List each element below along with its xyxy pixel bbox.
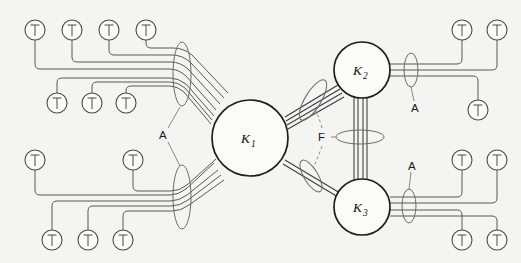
k2-right-wire-bundle: [390, 40, 497, 100]
switching-node-k3[interactable]: K 3: [334, 179, 390, 235]
group-ellipse-upper-left: [173, 42, 191, 106]
terminal-node: [123, 150, 143, 170]
diagram-canvas: K 1 K 2 K 3 A A A F: [0, 0, 521, 263]
leader-a-left-upper: [168, 107, 180, 128]
group-label-f-center: F: [318, 131, 325, 143]
terminal-node: [42, 230, 62, 250]
terminal-node: [452, 230, 472, 250]
leader-a-lower-right: [409, 172, 411, 189]
network-topology-diagram: K 1 K 2 K 3 A A A F: [0, 0, 521, 263]
group-ellipse-lower-left: [173, 165, 191, 229]
terminal-node: [452, 150, 472, 170]
node-label-k1-subscript: 1: [251, 139, 256, 149]
node-label-k2: K: [352, 63, 363, 78]
terminal-node: [136, 20, 156, 40]
group-ellipse-lower-right: [402, 189, 416, 223]
terminal-node: [487, 230, 507, 250]
terminal-node: [78, 230, 98, 250]
terminal-node: [487, 20, 507, 40]
leader-a-left-lower: [168, 142, 180, 166]
group-label-a-upper-right: A: [411, 102, 419, 114]
switching-node-k2[interactable]: K 2: [334, 42, 390, 98]
terminal-node: [113, 230, 133, 250]
k1-k2-trunk-bundle: [285, 85, 344, 129]
terminal-node: [116, 93, 136, 113]
node-label-k2-subscript: 2: [363, 71, 368, 81]
node-label-k1: K: [240, 131, 251, 146]
terminal-node: [47, 93, 67, 113]
terminal-node: [99, 20, 119, 40]
leader-a-upper-right: [411, 87, 414, 101]
label-leader-lines: [168, 87, 414, 189]
terminal-node: [25, 150, 45, 170]
terminal-node: [468, 100, 488, 120]
node-label-k3: K: [352, 200, 363, 215]
terminal-node: [487, 150, 507, 170]
group-label-a-left: A: [159, 129, 167, 141]
node-label-k3-subscript: 3: [362, 208, 368, 218]
terminal-node: [82, 93, 102, 113]
leader-f-to-k1k3: [313, 146, 322, 168]
switching-node-k1[interactable]: K 1: [212, 100, 288, 176]
terminal-node: [62, 20, 82, 40]
group-ellipse-k2-k3: [336, 130, 384, 144]
group-label-a-lower-right: A: [408, 160, 416, 172]
terminal-node: [25, 20, 45, 40]
k2-k3-trunk-bundle: [354, 97, 367, 180]
terminal-node: [452, 20, 472, 40]
